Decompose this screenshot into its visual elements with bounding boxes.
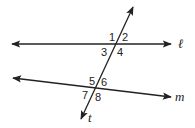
- angle-4: 4: [117, 46, 123, 58]
- transversal-t: [81, 7, 133, 119]
- angle-1: 1: [109, 31, 115, 43]
- angle-6: 6: [101, 76, 107, 88]
- angle-7: 7: [82, 89, 88, 101]
- angle-5: 5: [89, 75, 95, 87]
- label-t: t: [88, 110, 92, 125]
- transversal-diagram: ℓ m t 1 2 3 4 5 6 7 8: [0, 0, 195, 128]
- angle-3: 3: [101, 46, 107, 58]
- angle-8: 8: [95, 91, 101, 103]
- angle-2: 2: [122, 31, 128, 43]
- label-m: m: [175, 89, 184, 104]
- label-l: ℓ: [178, 36, 184, 51]
